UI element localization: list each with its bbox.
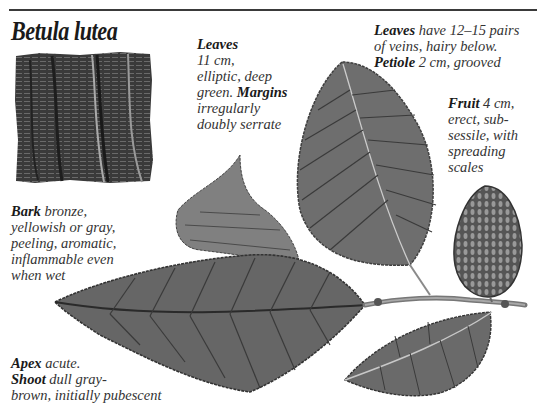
curled-leaf-illustration [176, 155, 300, 270]
bark-line: yellowish or gray, [11, 219, 116, 235]
fruit-label: Fruit [448, 95, 479, 111]
bark-line: when wet [11, 267, 116, 283]
petiole-label: Petiole [374, 54, 415, 70]
leaves-label: Leaves [374, 22, 415, 38]
bark-label: Bark [11, 203, 41, 219]
fruit-line: 4 cm, [483, 95, 514, 111]
small-leaf-illustration [345, 312, 492, 396]
bark-texture-illustration [15, 52, 153, 183]
margins-label: Margins [237, 84, 288, 100]
veins-line: of veins, hairy below. [374, 38, 519, 54]
fruit-line: spreading [448, 143, 518, 159]
fruit-line: sessile, with [448, 127, 518, 143]
leaves-size-note: Leaves 11 cm, elliptic, deep green. Marg… [197, 36, 288, 132]
margins-line: doubly serrate [197, 116, 288, 132]
shoot-line: dull gray- [49, 371, 107, 387]
leaves-size-line: 11 cm, [197, 52, 288, 68]
margins-line: irregularly [197, 100, 288, 116]
catkin-fruit-illustration [454, 186, 522, 302]
upright-leaf-illustration [297, 62, 436, 295]
bark-line: bronze, [44, 203, 87, 219]
fruit-line: erect, sub- [448, 111, 518, 127]
leaves-shape-line: elliptic, deep [197, 68, 288, 84]
bark-line: peeling, aromatic, [11, 235, 116, 251]
leaves-label: Leaves [197, 36, 238, 52]
leaves-veins-note: Leaves have 12–15 pairs of veins, hairy … [374, 22, 519, 70]
apex-shoot-note: Apex acute. Shoot dull gray- brown, init… [11, 355, 162, 403]
petiole-line: 2 cm, grooved [419, 54, 501, 70]
twig-illustration [365, 298, 525, 308]
veins-line: have 12–15 pairs [419, 22, 520, 38]
bark-note: Bark bronze, yellowish or gray, peeling,… [11, 203, 116, 283]
apex-line: acute. [45, 355, 80, 371]
shoot-line: brown, initially pubescent [11, 387, 162, 403]
leaves-color-line: green. [197, 84, 233, 100]
shoot-label: Shoot [11, 371, 46, 387]
fruit-line: scales [448, 159, 518, 175]
fruit-note: Fruit 4 cm, erect, sub- sessile, with sp… [448, 95, 518, 175]
bark-line: inflammable even [11, 251, 116, 267]
apex-label: Apex [11, 355, 42, 371]
